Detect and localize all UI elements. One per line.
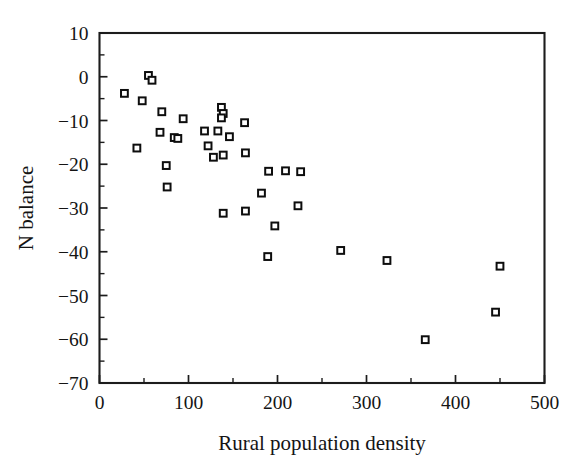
data-point <box>133 145 140 152</box>
y-tick-label: −50 <box>58 286 89 307</box>
y-tick-label: −20 <box>58 154 89 175</box>
data-point <box>174 135 181 142</box>
x-tick-label: 400 <box>441 392 470 413</box>
data-point <box>271 223 278 230</box>
data-point <box>164 184 171 191</box>
data-point <box>282 167 289 174</box>
data-point <box>214 128 221 135</box>
data-point <box>121 90 128 97</box>
data-point <box>264 253 271 260</box>
data-point <box>218 114 225 121</box>
y-axis-title: N balance <box>14 166 38 251</box>
data-point <box>149 77 156 84</box>
data-point <box>201 128 208 135</box>
data-point <box>220 152 227 159</box>
data-point <box>297 168 304 175</box>
data-point <box>220 210 227 217</box>
y-tick-label: −60 <box>58 329 89 350</box>
x-tick-label: 100 <box>174 392 203 413</box>
data-point <box>241 119 248 126</box>
y-tick-label: −40 <box>58 242 89 263</box>
data-point <box>258 190 265 197</box>
data-point <box>295 202 302 209</box>
scatter-plot-figure: 0100200300400500100−10−20−30−40−50−60−70… <box>0 0 586 465</box>
data-point <box>226 133 233 140</box>
data-point <box>163 162 170 169</box>
data-point <box>242 208 249 215</box>
x-tick-label: 500 <box>530 392 559 413</box>
data-point <box>210 154 217 161</box>
data-point <box>497 263 504 270</box>
y-tick-label: −30 <box>58 198 89 219</box>
data-point <box>337 247 344 254</box>
data-point <box>157 129 164 136</box>
y-tick-label: −10 <box>58 111 89 132</box>
y-tick-label: 10 <box>69 23 89 44</box>
data-point <box>139 97 146 104</box>
x-tick-label: 0 <box>95 392 105 413</box>
x-tick-label: 200 <box>263 392 292 413</box>
data-point <box>422 336 429 343</box>
data-point <box>265 168 272 175</box>
data-point <box>492 309 499 316</box>
y-tick-label: −70 <box>58 373 89 394</box>
plot-canvas: 0100200300400500100−10−20−30−40−50−60−70… <box>0 0 586 465</box>
plot-frame <box>100 33 545 383</box>
data-point <box>205 142 212 149</box>
data-point-group <box>121 72 503 343</box>
x-tick-label: 300 <box>352 392 381 413</box>
x-axis-title: Rural population density <box>218 431 426 455</box>
data-point <box>180 115 187 122</box>
data-point <box>384 257 391 264</box>
data-point <box>158 108 165 115</box>
data-point <box>242 149 249 156</box>
y-tick-label: 0 <box>79 67 89 88</box>
